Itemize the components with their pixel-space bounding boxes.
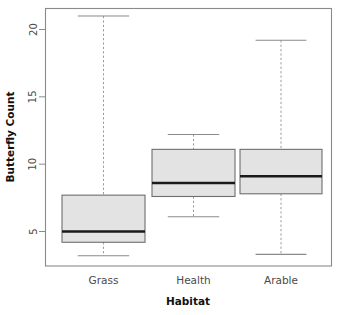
x-tick-label-arable: Arable xyxy=(264,274,298,286)
y-tick-label: 10 xyxy=(28,158,39,171)
box-group-health xyxy=(152,135,235,217)
box-group-grass xyxy=(62,16,145,256)
y-axis-title: Butterfly Count xyxy=(4,92,16,183)
boxplot-chart: 5101520 Butterfly Count GrassHealthArabl… xyxy=(0,0,340,315)
boxes-layer xyxy=(62,16,322,256)
box-rect xyxy=(240,149,322,193)
x-tick-label-grass: Grass xyxy=(89,274,119,286)
y-tick-label: 5 xyxy=(28,228,39,234)
box-group-arable xyxy=(240,40,322,254)
y-tick-label: 20 xyxy=(28,23,39,36)
x-tick-label-health: Health xyxy=(176,274,210,286)
y-axis: 5101520 xyxy=(28,23,46,235)
x-axis-title: Habitat xyxy=(166,295,210,307)
x-axis: GrassHealthArable xyxy=(89,274,298,286)
box-rect xyxy=(152,149,235,196)
y-tick-label: 15 xyxy=(28,90,39,103)
box-rect xyxy=(62,195,145,242)
boxplot-svg: 5101520 Butterfly Count GrassHealthArabl… xyxy=(0,0,340,315)
